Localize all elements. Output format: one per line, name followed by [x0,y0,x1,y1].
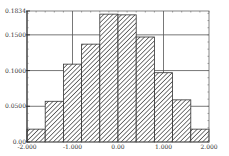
histogram-bar [63,64,81,142]
histogram-bar [100,14,118,142]
x-tick-label: 0.00 [111,143,125,150]
x-tick-label: 2.000 [200,143,217,150]
histogram-chart: 0.000.05000.10000.15000.1834 -2.000-1.00… [0,0,229,156]
y-tick-label: 0.1500 [5,31,26,38]
histogram-bar [27,129,45,142]
histogram-bar [154,73,172,142]
x-axis-ticks: -2.000-1.0000.001.0002.000 [17,143,217,150]
y-axis-ticks: 0.000.05000.10000.15000.1834 [5,7,30,145]
y-tick-label: 0.0500 [5,102,26,109]
histogram-bar [118,15,136,142]
y-tick-label: 0.1000 [5,67,26,74]
histogram-bar [136,37,154,142]
y-tick-label: 0.1834 [5,7,26,14]
x-tick-label: 1.000 [155,143,172,150]
histogram-bar [191,129,209,142]
histogram-bar [82,44,100,142]
histogram-bar [45,101,63,142]
x-tick-label: -2.000 [17,143,36,150]
histogram-bar [173,100,191,142]
x-tick-label: -1.000 [63,143,82,150]
